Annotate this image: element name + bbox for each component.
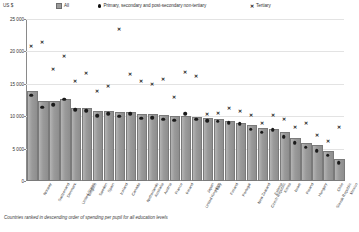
data-point-primary[interactable] xyxy=(84,109,88,113)
x-marker-icon: ✕ xyxy=(250,4,254,9)
bar-group[interactable]: ✕ xyxy=(92,19,103,181)
x-axis-tick-label: Belgium xyxy=(87,182,98,197)
bar-group[interactable]: ✕ xyxy=(26,19,37,181)
data-point-primary[interactable] xyxy=(304,146,308,150)
y-axis-tick-label: 10 000 xyxy=(10,114,24,119)
legend-item-all[interactable]: All xyxy=(56,0,69,12)
x-axis-tick-label: Hungary xyxy=(317,182,328,197)
y-axis-tick-mark xyxy=(24,181,27,182)
data-point-primary[interactable] xyxy=(139,116,143,120)
bar-group[interactable]: ✕ xyxy=(245,19,256,181)
bar-group[interactable]: ✕ xyxy=(147,19,158,181)
bar-group[interactable]: ✕ xyxy=(300,19,311,181)
y-axis-tick-label: 5 000 xyxy=(13,146,25,151)
data-point-primary[interactable] xyxy=(161,118,165,122)
data-point-primary[interactable] xyxy=(282,135,286,139)
legend-label-primary: Primary, secondary and post-secondary no… xyxy=(103,3,206,9)
x-axis-tick-label: Portugal xyxy=(240,182,251,197)
dot-marker-icon xyxy=(98,4,101,7)
data-point-primary[interactable] xyxy=(260,131,264,135)
bar-group[interactable]: ✕ xyxy=(267,19,278,181)
data-point-primary[interactable] xyxy=(41,105,45,109)
data-point-primary[interactable] xyxy=(95,114,99,118)
bar-group[interactable]: ✕ xyxy=(333,19,344,181)
data-point-primary[interactable] xyxy=(63,98,67,102)
x-axis-tick-label: Finland xyxy=(229,182,239,196)
data-point-primary[interactable] xyxy=(30,94,34,98)
bar-swatch-icon xyxy=(56,3,62,9)
data-point-primary[interactable] xyxy=(106,112,110,116)
bar-group[interactable]: ✕ xyxy=(136,19,147,181)
x-axis-tick-label: Norway xyxy=(42,182,53,196)
data-point-primary[interactable] xyxy=(249,127,253,131)
bar-group[interactable]: ✕ xyxy=(212,19,223,181)
legend-item-primary[interactable]: Primary, secondary and post-secondary no… xyxy=(98,0,206,12)
bar-group[interactable]: ✕ xyxy=(180,19,191,181)
data-point-primary[interactable] xyxy=(293,141,297,145)
x-axis-tick-label: New Zealand xyxy=(256,182,271,205)
chart-footnote: Countries ranked in descending order of … xyxy=(4,215,168,220)
data-point-primary[interactable] xyxy=(337,161,341,165)
data-point-primary[interactable] xyxy=(227,121,231,125)
x-axis-tick-label: Poland xyxy=(305,182,315,195)
y-axis-tick-label: 15 000 xyxy=(10,81,24,86)
bar-group[interactable]: ✕ xyxy=(103,19,114,181)
bar-group[interactable]: ✕ xyxy=(234,19,245,181)
data-point-primary[interactable] xyxy=(52,103,56,107)
bar-group[interactable]: ✕ xyxy=(278,19,289,181)
bar-group[interactable]: ✕ xyxy=(201,19,212,181)
bar-group[interactable]: ✕ xyxy=(125,19,136,181)
data-point-primary[interactable] xyxy=(183,112,187,116)
x-axis-tick-label: Israel xyxy=(293,182,302,193)
data-point-primary[interactable] xyxy=(326,153,330,157)
bar-group[interactable]: ✕ xyxy=(223,19,234,181)
bars-layer: ✕✕✕✕✕✕✕✕✕✕✕✕✕✕✕✕✕✕✕✕✕✕✕✕✕✕✕✕✕ xyxy=(26,19,344,181)
bar-group[interactable]: ✕ xyxy=(37,19,48,181)
data-point-primary[interactable] xyxy=(216,120,220,124)
bar-group[interactable]: ✕ xyxy=(114,19,125,181)
bar-group[interactable]: ✕ xyxy=(59,19,70,181)
bar-group[interactable]: ✕ xyxy=(256,19,267,181)
bar-group[interactable]: ✕ xyxy=(190,19,201,181)
y-axis-tick-label: 25 000 xyxy=(10,17,24,22)
bar-group[interactable]: ✕ xyxy=(169,19,180,181)
chart-legend: All Primary, secondary and post-secondar… xyxy=(0,0,350,14)
data-point-primary[interactable] xyxy=(238,122,242,126)
plot-area: 05 00010 00015 00020 00025 000 ✕✕✕✕✕✕✕✕✕… xyxy=(26,19,344,181)
bar-group[interactable]: ✕ xyxy=(158,19,169,181)
data-point-primary[interactable] xyxy=(150,116,154,120)
bar-group[interactable]: ✕ xyxy=(48,19,59,181)
data-point-primary[interactable] xyxy=(74,108,78,112)
x-axis-tick-label: France xyxy=(173,182,183,195)
legend-label-all: All xyxy=(64,3,69,9)
data-point-primary[interactable] xyxy=(117,114,121,118)
data-point-primary[interactable] xyxy=(205,119,209,123)
data-point-primary[interactable] xyxy=(315,149,319,153)
legend-item-tertiary[interactable]: ✕ Tertiary xyxy=(250,0,271,12)
bar-group[interactable]: ✕ xyxy=(81,19,92,181)
bar-group[interactable]: ✕ xyxy=(70,19,81,181)
data-point-primary[interactable] xyxy=(271,128,275,132)
data-point-primary[interactable] xyxy=(194,118,198,122)
y-axis-tick-label: 20 000 xyxy=(10,49,24,54)
x-axis-tick-label: Ireland xyxy=(184,182,194,195)
data-point-primary[interactable] xyxy=(128,112,132,116)
data-point-primary[interactable] xyxy=(172,118,176,122)
x-axis-tick-label: Canada xyxy=(130,182,141,196)
bar-group[interactable]: ✕ xyxy=(311,19,322,181)
bar-group[interactable]: ✕ xyxy=(289,19,300,181)
bar-group[interactable]: ✕ xyxy=(322,19,333,181)
x-axis-tick-label: Iceland xyxy=(119,182,129,195)
legend-label-tertiary: Tertiary xyxy=(256,3,271,9)
